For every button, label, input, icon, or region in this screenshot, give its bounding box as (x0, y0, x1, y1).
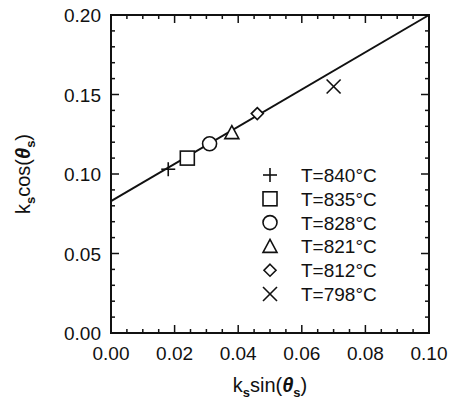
scatter-chart: 0.000.020.040.060.080.100.000.050.100.15… (0, 0, 457, 403)
legend-square-icon (263, 192, 277, 206)
x-tick-label: 0.02 (156, 343, 193, 364)
legend-label: T=835°C (301, 189, 377, 210)
legend: T=840°CT=835°CT=828°CT=821°CT=812°CT=798… (263, 165, 377, 305)
y-tick-label: 0.05 (64, 244, 101, 265)
x-tick-label: 0.08 (347, 343, 384, 364)
y-tick-label: 0.10 (64, 164, 101, 185)
legend-x-icon (263, 287, 277, 301)
x-tick-label: 0.10 (411, 343, 448, 364)
circle-marker-icon (203, 137, 217, 151)
legend-triangle-icon (263, 239, 277, 252)
legend-plus-icon (263, 168, 277, 182)
legend-label: T=821°C (301, 236, 377, 257)
square-marker-icon (180, 151, 194, 165)
x-marker-icon (327, 80, 341, 94)
legend-label: T=840°C (301, 165, 377, 186)
x-tick-label: 0.00 (93, 343, 130, 364)
legend-circle-icon (263, 216, 277, 230)
legend-label: T=828°C (301, 213, 377, 234)
legend-label: T=798°C (301, 284, 377, 305)
y-tick-label: 0.00 (64, 323, 101, 344)
x-axis-label: kssin(θs) (233, 374, 308, 400)
tick-labels: 0.000.020.040.060.080.100.000.050.100.15… (64, 5, 447, 364)
x-tick-label: 0.04 (220, 343, 257, 364)
data-points (161, 80, 340, 177)
legend-label: T=812°C (301, 260, 377, 281)
x-tick-label: 0.06 (283, 343, 320, 364)
legend-diamond-icon (264, 264, 276, 276)
y-tick-label: 0.15 (64, 85, 101, 106)
y-tick-label: 0.20 (64, 5, 101, 26)
y-axis-label: kscos(θs) (12, 134, 38, 214)
